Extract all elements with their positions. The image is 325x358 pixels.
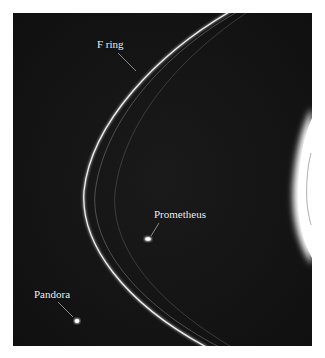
prometheus-label: Prometheus	[154, 208, 206, 220]
pandora-label: Pandora	[34, 288, 70, 300]
saturn-f-ring-photo: F ring Prometheus Pandora	[13, 13, 312, 346]
f-ring-label: F ring	[97, 38, 124, 50]
prometheus-moon-core	[145, 237, 151, 241]
pandora-moon-core	[75, 319, 79, 323]
